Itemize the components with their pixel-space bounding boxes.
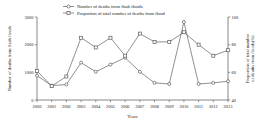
data-point-marker (212, 81, 215, 84)
data-point-marker (197, 82, 200, 85)
data-point-marker (227, 80, 230, 83)
x-tick-label: 2005 (106, 104, 116, 109)
x-tick-label: 2008 (150, 104, 160, 109)
y-axis-title-left: Number of deaths from flash floods (7, 25, 12, 91)
data-point-marker (80, 61, 83, 64)
data-point-marker (153, 81, 156, 84)
data-point-marker (80, 36, 83, 39)
data-point-marker (109, 36, 112, 39)
x-tick-label: 2012 (209, 104, 218, 109)
data-point-marker (94, 70, 97, 73)
data-point-marker (94, 46, 97, 49)
y-tick-label-left: 1000 (25, 70, 35, 75)
x-tick-label: 2011 (194, 104, 203, 109)
data-point-marker (36, 74, 39, 77)
data-point-marker (138, 70, 141, 73)
data-point-marker (182, 20, 185, 23)
data-point-marker (182, 31, 185, 34)
data-point-marker (50, 85, 53, 88)
legend-marker-1 (67, 12, 70, 15)
data-point-marker (124, 54, 127, 57)
x-tick-label: 2007 (135, 104, 145, 109)
x-tick-label: 2009 (165, 104, 175, 109)
line-chart: 0100020003000406080100200020012002200320… (0, 0, 267, 126)
data-point-marker (36, 69, 39, 72)
data-point-marker (227, 49, 230, 52)
x-tick-label: 2000 (33, 104, 43, 109)
data-point-marker (65, 83, 68, 86)
chart-container: 0100020003000406080100200020012002200320… (0, 0, 267, 126)
y-tick-label-right: 40 (232, 98, 237, 103)
data-point-marker (138, 32, 141, 35)
x-tick-label: 2013 (224, 104, 234, 109)
x-axis-title: Years (127, 114, 137, 119)
x-tick-label: 2004 (91, 104, 101, 109)
data-point-marker (65, 75, 68, 78)
x-tick-label: 2010 (180, 104, 190, 109)
data-point-marker (212, 54, 215, 57)
y-tick-label-left: 0 (31, 98, 34, 103)
data-point-marker (168, 82, 171, 85)
y-tick-label-right: 100 (232, 15, 239, 20)
x-tick-label: 2002 (62, 104, 71, 109)
data-point-marker (168, 40, 171, 43)
data-point-marker (153, 40, 156, 43)
data-point-marker (109, 63, 112, 66)
data-point-marker (197, 43, 200, 46)
y-tick-label-right: 60 (232, 70, 237, 75)
x-tick-label: 2003 (77, 104, 87, 109)
y-tick-label-left: 3000 (25, 15, 35, 20)
y-axis-title-right-line-2: of deaths from floods(%) (250, 35, 255, 82)
y-tick-label-left: 2000 (25, 42, 35, 47)
legend-label-0: Number of deaths from flash floods (77, 4, 143, 9)
x-tick-label: 2006 (121, 104, 131, 109)
y-tick-label-right: 80 (232, 42, 237, 47)
legend-marker-0 (67, 5, 70, 8)
x-tick-label: 2001 (47, 104, 56, 109)
legend-label-1: Proportion of total number of deaths fro… (77, 11, 166, 16)
